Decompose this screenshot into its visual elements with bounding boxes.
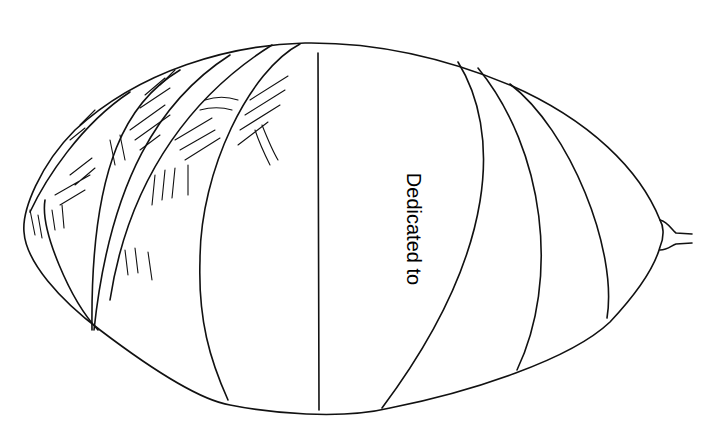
center-line (318, 53, 319, 410)
hatching (30, 70, 288, 280)
dedication-text: Dedicated to (402, 173, 425, 285)
balloon-illustration (0, 0, 715, 433)
balloon-knot (660, 220, 692, 250)
